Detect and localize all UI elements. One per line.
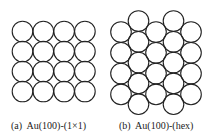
atom-circle	[75, 81, 96, 102]
atom-circle	[12, 41, 33, 62]
atom-circle	[181, 84, 202, 105]
atom-circle	[75, 41, 96, 62]
atom-circle	[54, 41, 75, 62]
atom-circle	[75, 21, 96, 42]
atom-circle	[54, 21, 75, 42]
figure: (a) Au(100)-(1×1) (b) Au(100)-(hex)	[0, 0, 212, 136]
atom-circle	[33, 41, 54, 62]
atom-circle	[75, 61, 96, 82]
atom-circle	[12, 21, 33, 42]
atom-circle	[33, 61, 54, 82]
atom-circle	[54, 61, 75, 82]
atom-circle	[128, 11, 149, 32]
atom-circle	[33, 21, 54, 42]
atom-circle	[163, 11, 184, 32]
atom-circle	[181, 43, 202, 64]
atom-circle	[181, 22, 202, 43]
atom-circle	[181, 63, 202, 84]
atom-circle	[12, 81, 33, 102]
panel-b-hex-lattice	[111, 11, 202, 115]
caption-b: (b) Au(100)-(hex)	[119, 120, 193, 131]
panel-a-square-lattice	[12, 21, 95, 102]
atom-circle	[54, 81, 75, 102]
caption-a: (a) Au(100)-(1×1)	[11, 120, 86, 131]
atom-circle	[12, 61, 33, 82]
atom-packing-diagram	[0, 0, 212, 136]
atom-circle	[33, 81, 54, 102]
